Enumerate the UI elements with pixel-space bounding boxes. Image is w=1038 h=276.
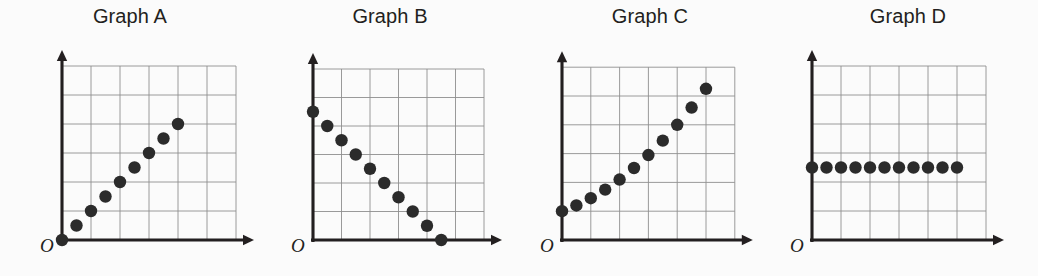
- data-point: [671, 119, 683, 131]
- figure-sheet: Graph A O Graph B O Graph C O Graph D O: [0, 0, 1038, 276]
- data-point: [99, 190, 111, 202]
- scatter-plot-graph-d: [778, 0, 1038, 276]
- panel-graph-b: Graph B O: [260, 0, 520, 276]
- data-point: [114, 176, 126, 188]
- origin-label-graph-b: O: [291, 235, 305, 257]
- data-point: [350, 148, 362, 160]
- data-point: [70, 219, 82, 231]
- data-point: [657, 134, 669, 146]
- grid-lines: [313, 69, 484, 240]
- panel-graph-a: Graph A O: [0, 0, 260, 276]
- data-point: [864, 161, 876, 173]
- scatter-plot-graph-c: [520, 0, 780, 276]
- scatter-plot-graph-a: [0, 0, 260, 276]
- data-point: [685, 101, 697, 113]
- data-point: [849, 161, 861, 173]
- data-point: [806, 161, 818, 173]
- data-point: [321, 120, 333, 132]
- x-axis-arrow-icon: [243, 235, 254, 245]
- data-point: [820, 161, 832, 173]
- data-point: [128, 161, 140, 173]
- data-point: [85, 205, 97, 217]
- data-points: [556, 83, 712, 218]
- data-point: [556, 205, 568, 217]
- y-axis-arrow-icon: [308, 53, 318, 64]
- origin-label-graph-a: O: [40, 235, 54, 257]
- y-axis-arrow-icon: [807, 50, 817, 61]
- data-point: [56, 234, 68, 246]
- axes: [807, 50, 1004, 245]
- data-points: [806, 161, 963, 173]
- data-point: [421, 220, 433, 232]
- data-points: [307, 106, 448, 247]
- panel-graph-d: Graph D O: [778, 0, 1038, 276]
- plot-area-graph-c: [520, 0, 780, 276]
- x-axis-arrow-icon: [742, 235, 753, 245]
- data-point: [435, 234, 447, 246]
- data-point: [407, 205, 419, 217]
- data-point: [392, 191, 404, 203]
- axes: [308, 53, 502, 245]
- data-point: [157, 132, 169, 144]
- data-point: [922, 161, 934, 173]
- data-point: [335, 134, 347, 146]
- data-point: [628, 162, 640, 174]
- data-point: [570, 199, 582, 211]
- data-point: [378, 177, 390, 189]
- data-point: [364, 163, 376, 175]
- data-point: [642, 149, 654, 161]
- data-point: [835, 161, 847, 173]
- panel-graph-c: Graph C O: [520, 0, 780, 276]
- x-axis-arrow-icon: [491, 235, 502, 245]
- data-point: [893, 161, 905, 173]
- x-axis-arrow-icon: [993, 235, 1004, 245]
- data-point: [700, 83, 712, 95]
- origin-label-graph-c: O: [540, 235, 554, 257]
- axes: [57, 50, 254, 245]
- data-point: [599, 183, 611, 195]
- grid-lines: [812, 66, 986, 240]
- data-point: [613, 173, 625, 185]
- data-point: [936, 161, 948, 173]
- data-point: [907, 161, 919, 173]
- data-point: [143, 147, 155, 159]
- plot-area-graph-a: [0, 0, 260, 276]
- data-point: [878, 161, 890, 173]
- origin-label-graph-d: O: [790, 235, 804, 257]
- data-point: [951, 161, 963, 173]
- y-axis-arrow-icon: [557, 51, 567, 62]
- axes: [557, 51, 753, 245]
- data-point: [585, 192, 597, 204]
- plot-area-graph-d: [778, 0, 1038, 276]
- y-axis-arrow-icon: [57, 50, 67, 61]
- data-point: [307, 106, 319, 118]
- data-point: [172, 118, 184, 130]
